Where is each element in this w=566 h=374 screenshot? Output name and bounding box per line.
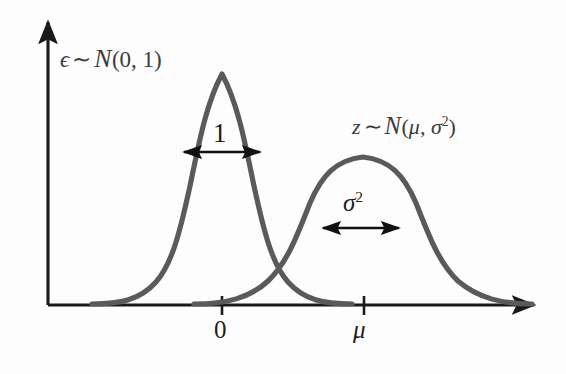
z-mean-symbol: μ bbox=[409, 114, 420, 139]
z-variance-symbol: σ bbox=[431, 114, 442, 139]
tilde-symbol-z: ∼ bbox=[361, 114, 385, 139]
z-variance-exponent: 2 bbox=[442, 114, 449, 129]
distribution-label-epsilon: ϵ∼N(0, 1) bbox=[60, 44, 162, 74]
sigma-exponent: 2 bbox=[355, 188, 363, 205]
gaussian-curve-z bbox=[194, 157, 532, 304]
tilde-symbol-epsilon: ∼ bbox=[69, 47, 94, 72]
width-label-sigma-squared: σ2 bbox=[343, 189, 363, 217]
z-paren-close: ) bbox=[449, 114, 456, 139]
z-symbol: z bbox=[352, 114, 361, 139]
normal-dist-symbol-z: N bbox=[385, 112, 402, 139]
x-tick-label-zero: 0 bbox=[214, 316, 227, 344]
epsilon-symbol: ϵ bbox=[60, 47, 69, 72]
epsilon-args: (0, 1) bbox=[112, 47, 162, 72]
sigma-symbol: σ bbox=[343, 189, 355, 216]
z-paren-open: ( bbox=[402, 114, 409, 139]
width-label-one: 1 bbox=[213, 118, 227, 149]
x-tick-label-mu: μ bbox=[353, 316, 366, 344]
distribution-label-z: z∼N(μ, σ2) bbox=[352, 112, 456, 140]
normal-dist-symbol-epsilon: N bbox=[94, 44, 112, 73]
z-comma: , bbox=[420, 114, 431, 139]
figure-canvas: ϵ∼N(0, 1) z∼N(μ, σ2) 1 σ2 0 μ bbox=[0, 0, 566, 374]
gaussian-curve-epsilon bbox=[92, 74, 352, 304]
